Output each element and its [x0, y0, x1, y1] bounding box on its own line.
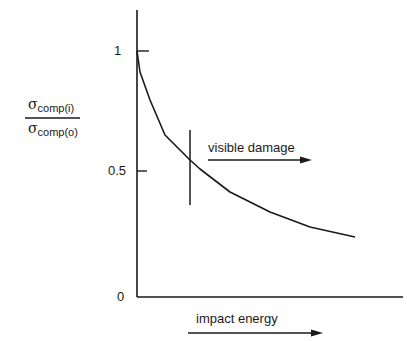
visible-damage-arrowhead	[300, 157, 312, 164]
visible-damage-label: visible damage	[208, 140, 295, 155]
y-label-numerator: σcomp(i)	[28, 96, 74, 114]
chart-canvas	[0, 0, 407, 341]
denominator-subscript: comp(o)	[38, 126, 78, 138]
numerator-subscript: comp(i)	[38, 102, 75, 114]
y-tick-label-0: 0	[117, 289, 124, 304]
sigma-symbol: σ	[28, 120, 38, 136]
y-tick-label-1: 1	[114, 43, 121, 58]
impact-energy-arrowhead	[311, 330, 323, 337]
x-axis-label: impact energy	[196, 311, 278, 326]
sigma-symbol: σ	[28, 96, 38, 112]
y-label-denominator: σcomp(o)	[28, 120, 78, 138]
y-tick-label-05: 0.5	[108, 163, 126, 178]
